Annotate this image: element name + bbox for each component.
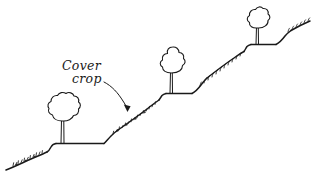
terrace-riser-1 <box>47 144 56 153</box>
slope-segment-lower <box>6 152 47 170</box>
tree-upper-canopy <box>247 7 270 28</box>
cover-crop-arrow-head <box>124 104 131 112</box>
cover-crop-leader-line <box>104 82 127 108</box>
cover-crop-label-line2: crop <box>72 71 102 86</box>
terrace-riser-3 <box>159 94 166 101</box>
tree-middle-canopy <box>160 47 185 73</box>
ground-profile-group <box>6 21 310 170</box>
diagram-canvas: Cover crop <box>0 0 317 184</box>
tree-upper-trunk <box>256 27 257 45</box>
tree-lower-canopy <box>48 92 80 121</box>
tree-upper <box>247 7 270 45</box>
cover-crop-cluster-lower-left <box>13 151 42 166</box>
tree-lower <box>48 92 80 143</box>
terrace-riser-5 <box>244 45 251 52</box>
tree-middle <box>160 47 185 94</box>
tree-lower-trunk <box>61 120 62 144</box>
tree-middle-trunk <box>170 72 171 94</box>
slope-segment-top <box>291 21 310 31</box>
terrace-riser-6 <box>276 31 291 45</box>
terrace-diagram: Cover crop <box>0 0 317 184</box>
